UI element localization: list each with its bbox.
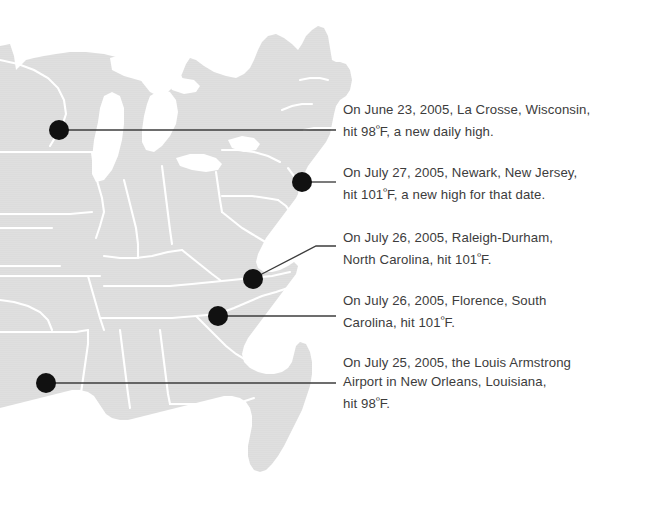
callout-florence-tail: F. bbox=[445, 315, 455, 330]
callout-florence-temp: Carolina, hit 101 bbox=[343, 315, 441, 330]
callout-la-crosse: On June 23, 2005, La Crosse, Wisconsin, … bbox=[343, 100, 590, 141]
leader-lines bbox=[52, 130, 336, 383]
callout-new-orleans-line-1: On July 25, 2005, the Louis Armstrong bbox=[343, 353, 571, 372]
callout-raleigh-durham: On July 26, 2005, Raleigh-Durham, North … bbox=[343, 228, 553, 269]
callout-la-crosse-temp: hit 98 bbox=[343, 124, 376, 139]
callout-new-orleans-line-3: hit 98ºF. bbox=[343, 391, 571, 413]
marker-raleigh[interactable] bbox=[243, 269, 263, 289]
marker-new-orleans[interactable] bbox=[36, 373, 56, 393]
callout-new-orleans-line-2: Airport in New Orleans, Louisiana, bbox=[343, 372, 571, 391]
callout-newark: On July 27, 2005, Newark, New Jersey, hi… bbox=[343, 163, 577, 204]
callout-raleigh-line-1: On July 26, 2005, Raleigh-Durham, bbox=[343, 228, 553, 247]
callout-new-orleans-temp: hit 98 bbox=[343, 396, 376, 411]
callout-newark-temp: hit 101 bbox=[343, 187, 383, 202]
callout-newark-line-1: On July 27, 2005, Newark, New Jersey, bbox=[343, 163, 577, 182]
callout-florence: On July 26, 2005, Florence, South Caroli… bbox=[343, 291, 546, 332]
map-figure: On June 23, 2005, La Crosse, Wisconsin, … bbox=[0, 0, 666, 512]
callout-la-crosse-tail: F, a new daily high. bbox=[380, 124, 494, 139]
callout-florence-line-1: On July 26, 2005, Florence, South bbox=[343, 291, 546, 310]
callout-raleigh-tail: F. bbox=[481, 252, 491, 267]
marker-florence[interactable] bbox=[208, 306, 228, 326]
callout-new-orleans: On July 25, 2005, the Louis Armstrong Ai… bbox=[343, 353, 571, 413]
annotation-overlay bbox=[0, 0, 666, 512]
callout-florence-line-2: Carolina, hit 101ºF. bbox=[343, 310, 546, 332]
city-markers bbox=[36, 120, 312, 393]
marker-la-crosse[interactable] bbox=[49, 120, 69, 140]
callout-la-crosse-line-1: On June 23, 2005, La Crosse, Wisconsin, bbox=[343, 100, 590, 119]
callout-raleigh-line-2: North Carolina, hit 101ºF. bbox=[343, 247, 553, 269]
callout-new-orleans-tail: F. bbox=[380, 396, 390, 411]
callout-raleigh-temp: North Carolina, hit 101 bbox=[343, 252, 477, 267]
callout-newark-line-2: hit 101ºF, a new high for that date. bbox=[343, 182, 577, 204]
callout-la-crosse-line-2: hit 98ºF, a new daily high. bbox=[343, 119, 590, 141]
leader-line-raleigh bbox=[258, 246, 336, 276]
marker-newark[interactable] bbox=[292, 172, 312, 192]
callout-newark-tail: F, a new high for that date. bbox=[387, 187, 545, 202]
